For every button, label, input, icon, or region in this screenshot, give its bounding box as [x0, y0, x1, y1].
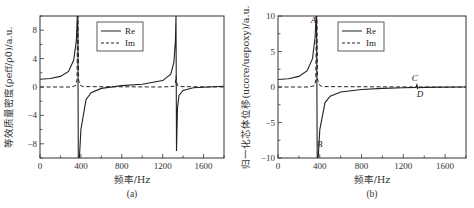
legend-im-label: Im [366, 38, 376, 48]
x-tick-label: 0 [276, 161, 281, 171]
annotation-c: C [412, 73, 419, 83]
y-tick-label: 10 [266, 11, 276, 21]
x-axis-label: 频率/Hz [114, 174, 151, 185]
y-tick-label: −5 [265, 118, 275, 128]
x-tick-label: 400 [74, 161, 88, 171]
x-tick-label: 800 [115, 161, 129, 171]
y-tick-label: 5 [271, 47, 276, 57]
x-tick-label: 800 [355, 161, 369, 171]
annotation-a: A [310, 15, 317, 25]
legend: ReIm [338, 22, 384, 51]
y-tick-label: 0 [271, 82, 276, 92]
x-tick-label: 1200 [154, 161, 173, 171]
y-tick-label: −10 [261, 153, 276, 163]
x-tick-label: 400 [313, 161, 327, 171]
legend-im-label: Im [125, 38, 135, 48]
chart-panel-a: 040080012001600840−4−8频率/Hz等效质量密度(ρeff/ρ… [0, 0, 237, 208]
legend-re-label: Re [366, 26, 376, 36]
y-tick-label: −4 [27, 110, 37, 120]
x-tick-label: 0 [38, 161, 43, 171]
chart-a-svg: 040080012001600840−4−8频率/Hz等效质量密度(ρeff/ρ… [0, 0, 237, 208]
panel-caption: (a) [127, 189, 138, 200]
legend-re-label: Re [125, 26, 135, 36]
annotation-b: B [317, 139, 323, 149]
y-axis-label: 等效质量密度(ρeff/ρ0)/a.u. [3, 26, 14, 147]
x-tick-label: 1200 [394, 161, 413, 171]
legend: ReIm [97, 22, 143, 51]
chart-b-svg: 0400800120016001050−5−10频率/Hz归一化芯体位移(uco… [237, 0, 474, 208]
chart-panel-b: 0400800120016001050−5−10频率/Hz归一化芯体位移(uco… [237, 0, 474, 208]
y-tick-label: 8 [33, 25, 38, 35]
x-tick-label: 1600 [436, 161, 455, 171]
x-tick-label: 1600 [195, 161, 214, 171]
x-axis-label: 频率/Hz [354, 174, 391, 185]
panel-caption: (b) [366, 189, 377, 200]
annotation-d: D [416, 89, 424, 99]
y-tick-label: 4 [33, 54, 38, 64]
y-axis-label: 归一化芯体位移(ucore/uepoxy)/a.u. [240, 5, 251, 168]
y-tick-label: −8 [27, 139, 37, 149]
y-tick-label: 0 [33, 82, 38, 92]
